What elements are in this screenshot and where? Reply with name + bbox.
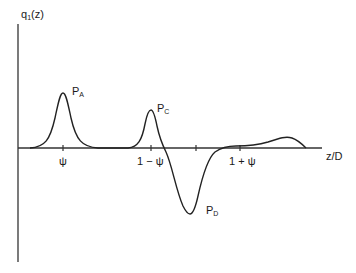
x-axis-label: z/D bbox=[326, 151, 343, 162]
annotation-pc: PC bbox=[157, 103, 169, 115]
tick-label-1-plus-psi: 1 + ψ bbox=[229, 156, 256, 167]
tick-label-psi: ψ bbox=[59, 156, 67, 167]
annotation-pa: PA bbox=[72, 86, 84, 98]
y-axis-label: q1(z) bbox=[21, 9, 44, 21]
chart-svg bbox=[0, 0, 356, 273]
annotation-pd: PD bbox=[206, 205, 218, 217]
tick-label-1-minus-psi: 1 − ψ bbox=[137, 156, 164, 167]
